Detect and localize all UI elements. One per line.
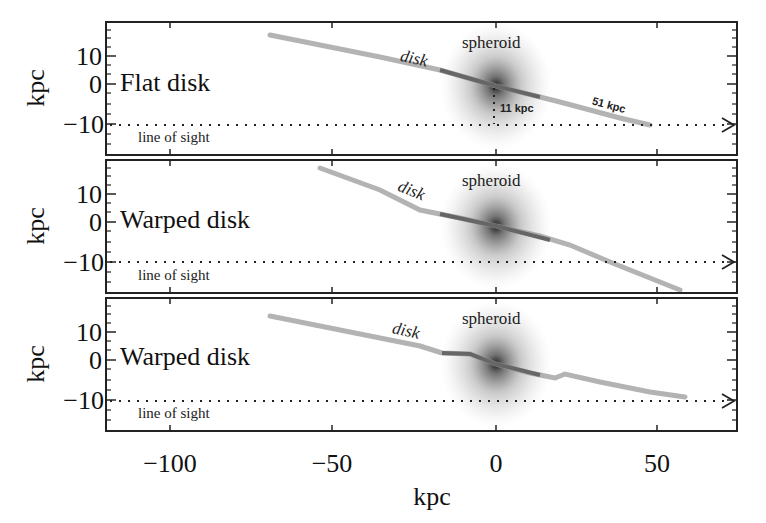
line-of-sight-label: line of sight: [138, 405, 210, 421]
panel-title: Warped disk: [120, 205, 250, 234]
svg-text:0: 0: [89, 346, 102, 375]
spheroid-label: spheroid: [462, 171, 521, 190]
line-of-sight-label: line of sight: [138, 129, 210, 145]
panel-warped-disk-2: Warped disk disk spheroid line of sight: [106, 298, 737, 431]
svg-text:−10: −10: [63, 110, 104, 139]
svg-text:0: 0: [89, 70, 102, 99]
svg-text:0: 0: [89, 208, 102, 237]
x-tick-labels: −100 −50 0 50: [143, 449, 670, 478]
svg-text:−10: −10: [63, 248, 104, 277]
panel-title: Flat disk: [120, 68, 210, 97]
svg-text:−100: −100: [143, 449, 197, 478]
spheroid-label: spheroid: [462, 33, 521, 52]
panel-flat-disk: Flat disk disk spheroid line of sight 11…: [106, 22, 737, 155]
svg-text:−50: −50: [312, 449, 353, 478]
disk-label: disk: [399, 46, 430, 70]
svg-text:−10: −10: [63, 386, 104, 415]
line-of-sight-label: line of sight: [138, 267, 210, 283]
svg-text:0: 0: [490, 449, 503, 478]
spheroid-label: spheroid: [462, 309, 521, 328]
svg-text:10: 10: [76, 180, 102, 209]
y-axis-label: kpc: [21, 207, 50, 245]
distance-label-11kpc: 11 kpc: [500, 102, 534, 114]
panel-title: Warped disk: [120, 342, 250, 371]
svg-text:50: 50: [644, 449, 670, 478]
figure: Flat disk disk spheroid line of sight 11…: [0, 0, 766, 523]
x-axis-label: kpc: [413, 482, 451, 511]
y-axis-label: kpc: [21, 69, 50, 107]
svg-text:10: 10: [76, 318, 102, 347]
svg-text:10: 10: [76, 42, 102, 71]
y-tick-labels: 10 0 −10 10 0 −10 10 0 −10: [63, 42, 104, 415]
y-axis-label: kpc: [21, 345, 50, 383]
panel-warped-disk-1: Warped disk disk spheroid line of sight: [106, 160, 737, 293]
